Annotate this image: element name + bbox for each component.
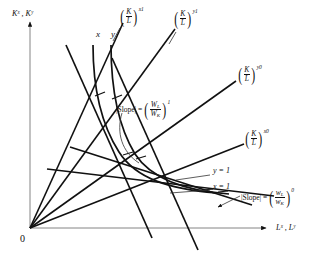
paren-open-icon: ( — [174, 11, 178, 27]
axes-group — [30, 22, 266, 228]
slope-1-numerator: WL — [150, 101, 161, 109]
slope-1-exponent: 1 — [167, 100, 170, 106]
tangency-tick-6 — [218, 191, 228, 192]
paren-open-icon: ( — [245, 131, 249, 147]
kl-y0-numerator: K — [243, 66, 250, 74]
kl-x1-numerator: K — [125, 8, 132, 16]
rays-group — [30, 23, 244, 228]
kl-y1-numerator: K — [179, 10, 186, 18]
slope-0-numerator: wL — [275, 189, 285, 197]
paren-close-icon: ) — [134, 9, 138, 25]
y-axis-label: Kˣ , Kʸ — [12, 10, 33, 18]
ray-label-kl-x0: ( K L ) x0 — [244, 130, 269, 148]
paren-close-icon: ) — [286, 190, 290, 206]
x-equals-one-label: x = 1 — [213, 183, 230, 191]
kl-x1-denominator: L — [126, 16, 132, 25]
paren-close-icon: ) — [188, 11, 192, 27]
isoquant-y-label: y — [111, 30, 115, 39]
paren-open-icon: ( — [238, 67, 242, 83]
y-equals-one-label: y = 1 — [213, 167, 230, 175]
isoquant-y-curve — [111, 45, 229, 194]
paren-open-icon: ( — [120, 9, 124, 25]
kl-y1-exponent: y1 — [193, 9, 198, 15]
slope-1-word: |Slope| = — [116, 106, 142, 114]
kl-x0-exponent: x0 — [264, 129, 269, 135]
figure-svg — [0, 0, 325, 256]
isoquants-group — [93, 45, 229, 194]
paren-open-icon: ( — [269, 190, 273, 206]
paren-close-icon: ) — [259, 131, 263, 147]
kl-y1-denominator: L — [180, 18, 186, 27]
y1-leader — [176, 175, 210, 180]
slope-label-1: |Slope| = ( WL WK ) 1 — [116, 99, 170, 119]
ray-label-kl-x1: ( K L ) x1 — [119, 8, 144, 26]
isoquant-x-label: x — [96, 30, 100, 39]
slope-0-word: |Slope| = — [241, 194, 267, 202]
ray-label-kl-y0: ( K L ) y0 — [237, 66, 262, 84]
slope-1-denominator: WK — [150, 109, 162, 118]
kl-x1-exponent: x1 — [139, 7, 144, 13]
kl-x0-numerator: K — [250, 130, 257, 138]
kl-x0-denominator: L — [251, 138, 257, 147]
slope-label-0: |Slope| = ( wL wK ) 0 — [241, 187, 294, 207]
ray-label-kl-y1: ( K L ) y1 — [173, 10, 198, 28]
kl-y0-exponent: y0 — [257, 65, 262, 71]
paren-close-icon: ) — [162, 102, 166, 118]
origin-label: 0 — [20, 234, 25, 244]
paren-open-icon: ( — [144, 102, 148, 118]
slope-0-denominator: wK — [275, 197, 285, 206]
paren-close-icon: ) — [252, 67, 256, 83]
kl-y1-leader — [169, 32, 176, 44]
kl-y0-denominator: L — [244, 74, 250, 83]
figure-canvas: Kˣ , Kʸ Lˣ , Lʸ 0 x y y = 1 x = 1 ( K L … — [0, 0, 325, 256]
slope-0-exponent: 0 — [291, 188, 294, 194]
isocost-flat-1 — [70, 147, 252, 205]
x-axis-label: Lˣ , Lʸ — [276, 224, 295, 232]
